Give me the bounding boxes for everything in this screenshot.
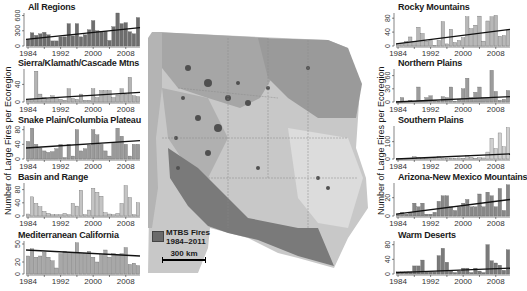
svg-text:1992: 1992 <box>52 219 70 228</box>
panel-basin-and-range: 040801984199220002008Basin and Range <box>8 172 143 228</box>
svg-text:0: 0 <box>14 214 21 218</box>
svg-text:2000: 2000 <box>454 49 472 58</box>
svg-text:2000: 2000 <box>454 277 472 286</box>
svg-text:2000: 2000 <box>454 105 472 114</box>
panel-title: Southern Plains <box>398 115 464 125</box>
svg-text:1984: 1984 <box>19 49 37 58</box>
panel-warm-deserts: 040801984199220002008Warm Deserts <box>378 230 513 286</box>
svg-text:0: 0 <box>384 44 391 48</box>
svg-text:2000: 2000 <box>84 162 102 171</box>
svg-text:1984: 1984 <box>19 277 37 286</box>
svg-text:40: 40 <box>14 199 21 207</box>
panel-southern-plains: 01001984199220002008Southern Plains <box>378 115 513 171</box>
svg-text:2008: 2008 <box>117 49 135 58</box>
svg-text:2000: 2000 <box>84 219 102 228</box>
svg-text:1984: 1984 <box>19 105 37 114</box>
scale-bar: 300 km <box>162 249 206 261</box>
svg-text:80: 80 <box>384 14 391 22</box>
svg-text:2008: 2008 <box>487 219 505 228</box>
panel-title: Arizona-New Mexico Mountains <box>398 172 527 182</box>
svg-text:1984: 1984 <box>19 162 37 171</box>
svg-text:1992: 1992 <box>52 49 70 58</box>
svg-text:0: 0 <box>384 272 391 276</box>
svg-text:20: 20 <box>384 194 391 202</box>
svg-text:2000: 2000 <box>84 277 102 286</box>
svg-text:80: 80 <box>14 186 21 194</box>
svg-text:0: 0 <box>14 44 21 48</box>
svg-text:2000: 2000 <box>454 162 472 171</box>
svg-text:2008: 2008 <box>487 162 505 171</box>
svg-text:80: 80 <box>384 241 391 249</box>
svg-text:2008: 2008 <box>117 162 135 171</box>
panel-title: All Regions <box>28 2 75 12</box>
mtbs-fires-swatch <box>152 231 164 242</box>
svg-text:40: 40 <box>384 28 391 36</box>
panel-title: Snake Plain/Columbia Plateau <box>18 115 141 125</box>
svg-text:1992: 1992 <box>422 162 440 171</box>
svg-text:1984: 1984 <box>389 219 407 228</box>
svg-text:1992: 1992 <box>422 49 440 58</box>
svg-text:300: 300 <box>14 25 21 37</box>
svg-text:0: 0 <box>14 157 21 161</box>
svg-text:30: 30 <box>384 85 391 93</box>
svg-text:2008: 2008 <box>117 219 135 228</box>
svg-text:0: 0 <box>14 272 21 276</box>
svg-text:1992: 1992 <box>52 162 70 171</box>
legend-label-1: MTBS Fires <box>166 228 210 237</box>
svg-text:1984: 1984 <box>389 49 407 58</box>
svg-text:40: 40 <box>14 80 21 88</box>
svg-text:1992: 1992 <box>52 277 70 286</box>
svg-text:1984: 1984 <box>389 162 407 171</box>
svg-text:600: 600 <box>14 10 21 22</box>
panel-sierra-klamath-cascade-mtns: 0401984199220002008Sierra/Klamath/Cascad… <box>8 58 143 114</box>
svg-text:1984: 1984 <box>389 277 407 286</box>
panel-mediterranean-california: 020501984199220002008Mediterranean Calif… <box>8 230 143 286</box>
scale-bar-line <box>162 259 206 261</box>
svg-text:0: 0 <box>14 100 21 104</box>
svg-text:0: 0 <box>384 157 391 161</box>
svg-text:0: 0 <box>384 214 391 218</box>
svg-text:2000: 2000 <box>84 49 102 58</box>
svg-text:2000: 2000 <box>84 105 102 114</box>
svg-text:1992: 1992 <box>422 277 440 286</box>
panel-title: Rocky Mountains <box>398 2 470 12</box>
svg-text:0: 0 <box>384 100 391 104</box>
svg-text:2008: 2008 <box>117 105 135 114</box>
panel-all-regions: 03006001984199220002008All Regions <box>8 2 143 58</box>
svg-text:40: 40 <box>14 140 21 148</box>
svg-text:2008: 2008 <box>487 49 505 58</box>
svg-text:20: 20 <box>14 258 21 266</box>
panel-snake-plain-columbia-plateau: 040801984199220002008Snake Plain/Columbi… <box>8 115 143 171</box>
panel-rocky-mountains: 040801984199220002008Rocky Mountains <box>378 2 513 58</box>
scale-bar-label: 300 km <box>162 249 206 258</box>
panel-title: Basin and Range <box>18 172 88 182</box>
legend-label-2: 1984–2011 <box>166 237 210 246</box>
panel-title: Northern Plains <box>398 58 462 68</box>
panel-arizona-new-mexico-mountains: 0201984199220002008Arizona-New Mexico Mo… <box>378 172 513 228</box>
svg-text:1992: 1992 <box>52 105 70 114</box>
svg-text:1992: 1992 <box>422 105 440 114</box>
svg-text:50: 50 <box>14 240 21 248</box>
svg-text:40: 40 <box>384 255 391 263</box>
svg-text:80: 80 <box>14 126 21 134</box>
panel-title: Mediterranean California <box>18 230 119 240</box>
svg-text:60: 60 <box>384 72 391 80</box>
svg-text:1984: 1984 <box>389 105 407 114</box>
svg-text:2008: 2008 <box>117 277 135 286</box>
svg-text:1992: 1992 <box>422 219 440 228</box>
svg-text:100: 100 <box>384 136 391 148</box>
panel-northern-plains: 030601984199220002008Northern Plains <box>378 58 513 114</box>
svg-text:1984: 1984 <box>19 219 37 228</box>
svg-text:2000: 2000 <box>454 219 472 228</box>
panel-title: Warm Deserts <box>398 230 456 240</box>
svg-text:2008: 2008 <box>487 105 505 114</box>
panel-title: Sierra/Klamath/Cascade Mtns <box>18 58 139 68</box>
svg-text:2008: 2008 <box>487 277 505 286</box>
